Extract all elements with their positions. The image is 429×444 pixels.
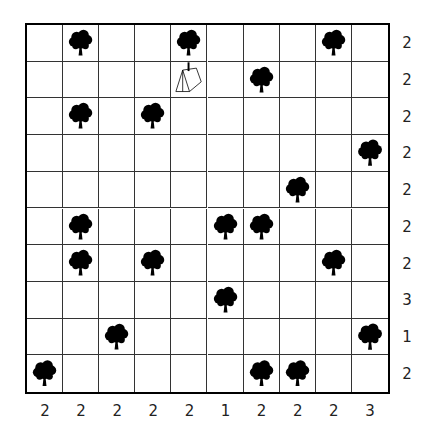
empty-cell[interactable] <box>63 355 99 392</box>
empty-cell[interactable] <box>208 25 244 62</box>
empty-cell[interactable] <box>171 355 207 392</box>
empty-cell[interactable] <box>63 172 99 209</box>
empty-cell[interactable] <box>63 319 99 356</box>
empty-cell[interactable] <box>280 62 316 99</box>
empty-cell[interactable] <box>280 98 316 135</box>
empty-cell[interactable] <box>244 319 280 356</box>
tree-cell <box>208 209 244 246</box>
tree-cell <box>99 319 135 356</box>
tree-icon <box>244 209 279 245</box>
empty-cell[interactable] <box>27 25 63 62</box>
empty-cell[interactable] <box>135 172 171 209</box>
empty-cell[interactable] <box>316 319 352 356</box>
empty-cell[interactable] <box>27 282 63 319</box>
empty-cell[interactable] <box>135 25 171 62</box>
empty-cell[interactable] <box>208 355 244 392</box>
empty-cell[interactable] <box>171 98 207 135</box>
empty-cell[interactable] <box>171 172 207 209</box>
empty-cell[interactable] <box>208 135 244 172</box>
empty-cell[interactable] <box>316 98 352 135</box>
empty-cell[interactable] <box>135 319 171 356</box>
tree-icon <box>63 25 98 61</box>
row-clue: 1 <box>397 328 417 346</box>
empty-cell[interactable] <box>171 209 207 246</box>
empty-cell[interactable] <box>27 135 63 172</box>
empty-cell[interactable] <box>208 98 244 135</box>
empty-cell[interactable] <box>171 245 207 282</box>
tree-icon <box>244 62 279 98</box>
empty-cell[interactable] <box>99 245 135 282</box>
column-clue: 1 <box>208 402 244 420</box>
row-clue: 2 <box>397 108 417 126</box>
empty-cell[interactable] <box>208 245 244 282</box>
empty-cell[interactable] <box>27 209 63 246</box>
row-clue: 2 <box>397 218 417 236</box>
empty-cell[interactable] <box>316 172 352 209</box>
empty-cell[interactable] <box>99 62 135 99</box>
tree-icon <box>171 25 206 61</box>
empty-cell[interactable] <box>63 282 99 319</box>
empty-cell[interactable] <box>135 62 171 99</box>
empty-cell[interactable] <box>280 25 316 62</box>
empty-cell[interactable] <box>27 319 63 356</box>
empty-cell[interactable] <box>244 282 280 319</box>
empty-cell[interactable] <box>316 62 352 99</box>
empty-cell[interactable] <box>352 172 388 209</box>
empty-cell[interactable] <box>244 245 280 282</box>
tree-cell <box>27 355 63 392</box>
empty-cell[interactable] <box>352 25 388 62</box>
empty-cell[interactable] <box>63 62 99 99</box>
empty-cell[interactable] <box>27 62 63 99</box>
empty-cell[interactable] <box>352 209 388 246</box>
empty-cell[interactable] <box>135 355 171 392</box>
empty-cell[interactable] <box>171 135 207 172</box>
empty-cell[interactable] <box>244 98 280 135</box>
empty-cell[interactable] <box>99 282 135 319</box>
row-clue: 3 <box>397 291 417 309</box>
empty-cell[interactable] <box>352 98 388 135</box>
tree-cell <box>280 355 316 392</box>
empty-cell[interactable] <box>352 355 388 392</box>
tent-cell[interactable] <box>171 62 207 99</box>
empty-cell[interactable] <box>171 319 207 356</box>
empty-cell[interactable] <box>27 98 63 135</box>
empty-cell[interactable] <box>316 282 352 319</box>
empty-cell[interactable] <box>27 172 63 209</box>
empty-cell[interactable] <box>280 245 316 282</box>
tree-cell <box>244 62 280 99</box>
empty-cell[interactable] <box>99 355 135 392</box>
empty-cell[interactable] <box>352 62 388 99</box>
empty-cell[interactable] <box>316 355 352 392</box>
empty-cell[interactable] <box>99 172 135 209</box>
empty-cell[interactable] <box>99 25 135 62</box>
tree-icon <box>352 135 388 171</box>
empty-cell[interactable] <box>244 135 280 172</box>
column-clue: 2 <box>99 402 135 420</box>
empty-cell[interactable] <box>280 319 316 356</box>
empty-cell[interactable] <box>244 172 280 209</box>
empty-cell[interactable] <box>135 135 171 172</box>
empty-cell[interactable] <box>280 135 316 172</box>
empty-cell[interactable] <box>280 282 316 319</box>
empty-cell[interactable] <box>208 172 244 209</box>
empty-cell[interactable] <box>352 282 388 319</box>
empty-cell[interactable] <box>171 282 207 319</box>
empty-cell[interactable] <box>208 62 244 99</box>
tree-cell <box>244 209 280 246</box>
empty-cell[interactable] <box>244 25 280 62</box>
empty-cell[interactable] <box>99 209 135 246</box>
empty-cell[interactable] <box>135 282 171 319</box>
empty-cell[interactable] <box>135 209 171 246</box>
empty-cell[interactable] <box>280 209 316 246</box>
empty-cell[interactable] <box>316 209 352 246</box>
empty-cell[interactable] <box>208 319 244 356</box>
empty-cell[interactable] <box>63 135 99 172</box>
empty-cell[interactable] <box>99 135 135 172</box>
row-clue: 2 <box>397 255 417 273</box>
tree-icon <box>280 355 315 392</box>
empty-cell[interactable] <box>316 135 352 172</box>
empty-cell[interactable] <box>27 245 63 282</box>
empty-cell[interactable] <box>352 245 388 282</box>
empty-cell[interactable] <box>99 98 135 135</box>
tree-cell <box>63 209 99 246</box>
